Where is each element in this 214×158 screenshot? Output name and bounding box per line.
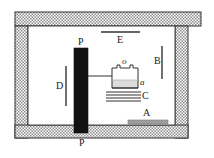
right-vertical-bar-label: B <box>154 56 161 66</box>
base-wall-label: P <box>79 138 85 148</box>
plate-stack-label: C <box>142 91 149 101</box>
vessel-liquid <box>112 80 138 88</box>
chamber-right-wall <box>175 26 188 138</box>
vessel-neck-label: o <box>122 57 127 66</box>
chamber-bottom-wall <box>15 125 188 138</box>
chamber-walls <box>15 12 201 138</box>
chamber-lid <box>15 12 201 26</box>
bottom-gray-bar <box>128 120 168 124</box>
apparatus-drawing <box>0 0 214 158</box>
chamber-left-wall <box>15 26 28 138</box>
black-plate-p <box>74 48 88 133</box>
upper-horizontal-bar-label: E <box>117 35 123 45</box>
bottom-bar-label: A <box>143 108 150 118</box>
left-vertical-bar-label: D <box>56 81 63 91</box>
black-plate-label-top: P <box>78 37 84 47</box>
apparatus-figure: P E B D o a C A P <box>0 0 214 158</box>
liquid-level-label: a <box>140 78 145 87</box>
